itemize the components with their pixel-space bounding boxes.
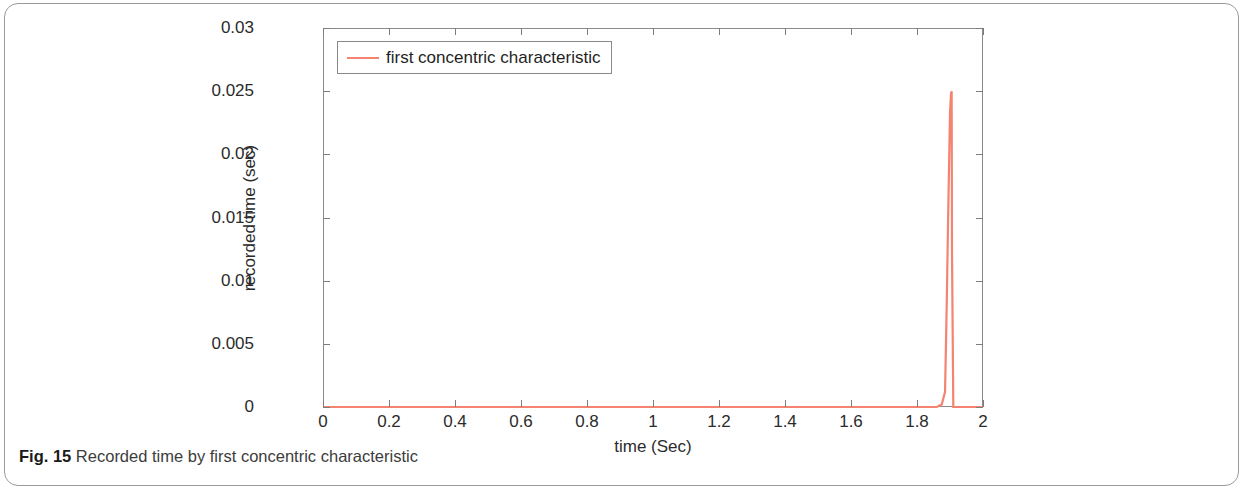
x-tick-mark xyxy=(917,28,918,35)
x-tick-label: 1.6 xyxy=(839,412,863,432)
x-tick-mark xyxy=(653,400,654,407)
x-tick-mark xyxy=(719,400,720,407)
x-tick-mark xyxy=(851,28,852,35)
x-tick-mark xyxy=(719,28,720,35)
y-tick-mark xyxy=(976,154,983,155)
x-tick-mark xyxy=(389,28,390,35)
x-tick-mark xyxy=(455,400,456,407)
y-tick-mark xyxy=(976,28,983,29)
y-tick-label: 0.03 xyxy=(221,18,254,38)
y-tick-mark xyxy=(323,344,330,345)
x-axis-title: time (Sec) xyxy=(614,437,691,457)
y-axis-title: recorded time (sec) xyxy=(240,145,260,291)
x-tick-label: 0.6 xyxy=(509,412,533,432)
x-tick-mark xyxy=(389,400,390,407)
y-tick-mark xyxy=(976,344,983,345)
y-tick-label: 0.025 xyxy=(211,81,254,101)
y-tick-mark xyxy=(323,91,330,92)
x-tick-mark xyxy=(521,28,522,35)
x-tick-mark xyxy=(587,400,588,407)
figure-caption-text: Recorded time by first concentric charac… xyxy=(76,447,418,465)
y-tick-label: 0 xyxy=(245,397,254,417)
x-tick-label: 0.8 xyxy=(575,412,599,432)
x-tick-mark xyxy=(587,28,588,35)
x-tick-mark xyxy=(851,400,852,407)
y-tick-mark xyxy=(323,281,330,282)
x-tick-label: 2 xyxy=(978,412,987,432)
x-tick-mark xyxy=(323,28,324,35)
y-tick-label: 0.005 xyxy=(211,334,254,354)
chart-svg xyxy=(5,4,1240,436)
y-tick-mark xyxy=(976,281,983,282)
x-tick-label: 1.2 xyxy=(707,412,731,432)
chart-legend: first concentric characteristic xyxy=(337,41,612,74)
figure-caption: Fig. 15 Recorded time by first concentri… xyxy=(19,447,418,466)
x-tick-mark xyxy=(983,400,984,407)
legend-line-swatch-icon xyxy=(347,57,379,59)
figure-frame: 00.20.40.60.811.21.41.61.8200.0050.010.0… xyxy=(4,3,1239,486)
y-tick-mark xyxy=(976,218,983,219)
x-tick-label: 1 xyxy=(648,412,657,432)
x-tick-mark xyxy=(917,400,918,407)
y-tick-mark xyxy=(323,218,330,219)
legend-entry-label: first concentric characteristic xyxy=(386,48,600,68)
x-tick-label: 1.8 xyxy=(905,412,929,432)
x-tick-mark xyxy=(323,400,324,407)
x-tick-mark xyxy=(455,28,456,35)
x-tick-mark xyxy=(653,28,654,35)
series-line-first-concentric-characteristic xyxy=(323,91,983,407)
x-tick-label: 0.2 xyxy=(377,412,401,432)
plot-area: 00.20.40.60.811.21.41.61.8200.0050.010.0… xyxy=(5,4,1240,436)
x-tick-mark xyxy=(983,28,984,35)
x-tick-mark xyxy=(785,400,786,407)
y-tick-mark xyxy=(323,28,330,29)
y-tick-mark xyxy=(323,154,330,155)
y-tick-mark xyxy=(976,407,983,408)
x-tick-label: 0 xyxy=(318,412,327,432)
x-tick-mark xyxy=(521,400,522,407)
x-tick-label: 0.4 xyxy=(443,412,467,432)
x-tick-label: 1.4 xyxy=(773,412,797,432)
y-tick-mark xyxy=(323,407,330,408)
y-tick-mark xyxy=(976,91,983,92)
figure-number: Fig. 15 xyxy=(19,447,71,465)
x-tick-mark xyxy=(785,28,786,35)
